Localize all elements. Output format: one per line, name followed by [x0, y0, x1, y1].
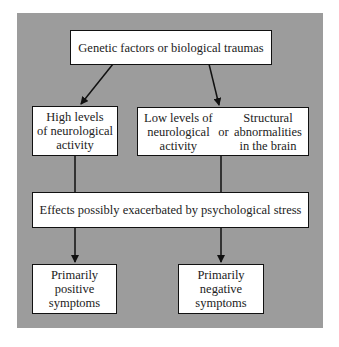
node-effects: Effects possibly exacerbated by psycholo…	[32, 192, 309, 228]
or-label: or	[218, 125, 228, 139]
node-label: Primarily negative symptoms	[195, 268, 246, 310]
node-structural-label: Structural abnormalities in the brain	[234, 111, 302, 153]
node-label: Genetic factors or biological traumas	[78, 41, 263, 55]
node-genetic-factors: Genetic factors or biological traumas	[70, 30, 272, 65]
node-label: High levels of neurological activity	[37, 110, 113, 152]
node-low-or-structural: Low levels of neurological activity or S…	[137, 107, 309, 156]
node-low-levels-label: Low levels of neurological activity	[144, 111, 213, 153]
node-high-levels: High levels of neurological activity	[32, 106, 118, 156]
arrow-top-to-low	[209, 64, 219, 105]
node-negative-symptoms: Primarily negative symptoms	[178, 264, 264, 314]
node-label: Primarily positive symptoms	[49, 268, 100, 310]
node-label: Effects possibly exacerbated by psycholo…	[40, 203, 302, 217]
arrow-top-to-high	[81, 64, 113, 104]
node-positive-symptoms: Primarily positive symptoms	[32, 264, 117, 314]
